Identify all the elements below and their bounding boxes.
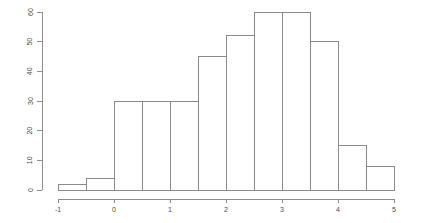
- histogram-figure: 0102030405060 -1012345: [0, 0, 440, 223]
- y-axis-tick-label: 30: [27, 97, 34, 105]
- y-axis-tick-label: 10: [27, 156, 34, 164]
- y-axis-tick-label: 50: [27, 38, 34, 46]
- x-axis-tick-label: 0: [112, 206, 116, 213]
- x-axis-tick-label: 2: [224, 206, 228, 213]
- y-axis-tick-label: 40: [27, 67, 34, 75]
- x-axis-tick-label: -1: [55, 206, 61, 213]
- y-axis-tick-label: 0: [27, 188, 34, 192]
- x-axis-tick-label: 4: [336, 206, 340, 213]
- y-axis-tick-label: 20: [27, 127, 34, 135]
- y-axis-tick-label: 60: [27, 8, 34, 16]
- x-axis-tick-label: 1: [168, 206, 172, 213]
- x-axis-tick-label: 3: [280, 206, 284, 213]
- histogram-svg: 0102030405060 -1012345: [0, 0, 440, 223]
- x-axis-tick-label: 5: [392, 206, 396, 213]
